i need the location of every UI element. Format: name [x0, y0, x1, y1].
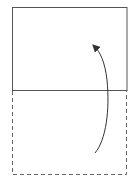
- paper-top-section: [13, 8, 128, 91]
- fold-up-arrow-icon: [95, 47, 108, 153]
- diagram-canvas: [0, 0, 136, 186]
- paper-bottom-dashed-outline: [13, 91, 127, 175]
